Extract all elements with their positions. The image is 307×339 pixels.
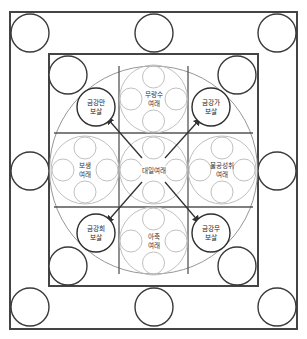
outer-circle-b — [135, 288, 173, 326]
label-center: 대일여래 — [142, 166, 166, 175]
label-top-right-2: 보살 — [205, 107, 217, 116]
bodhisattva-circle-bottom-left — [77, 214, 115, 252]
label-bottom-right-1: 금강무 — [202, 224, 220, 233]
outer-circle-t — [135, 14, 173, 52]
bodhisattva-circle-top-left — [77, 88, 115, 126]
label-top-left-1: 금강만 — [87, 98, 105, 107]
label-north-2: 여래 — [148, 99, 160, 108]
label-bottom-left-2: 보살 — [90, 233, 102, 242]
label-south-1: 아축 — [148, 232, 160, 241]
bodhisattva-circle-bottom-right — [192, 214, 230, 252]
outer-circle-r — [258, 152, 296, 190]
bodhisattva-circle-top-right — [192, 88, 230, 126]
outer-circle-bl — [11, 288, 49, 326]
label-north-1: 무량수 — [145, 91, 163, 99]
outer-circle-l — [11, 152, 49, 190]
inner-circle-br — [218, 247, 256, 285]
inner-circle-tl — [49, 56, 87, 94]
label-top-left-2: 보살 — [90, 107, 102, 116]
inner-circle-bl — [49, 247, 87, 285]
label-east-2: 여래 — [216, 170, 228, 179]
label-bottom-right-2: 보살 — [205, 233, 217, 242]
label-south-2: 여래 — [148, 241, 160, 250]
label-west-1: 보생 — [79, 161, 91, 170]
outer-circle-tr — [258, 14, 296, 52]
outer-circle-br — [258, 288, 296, 326]
label-west-2: 여래 — [79, 170, 91, 179]
inner-circle-tr — [218, 56, 256, 94]
label-top-right-1: 금강가 — [202, 98, 220, 107]
label-bottom-left-1: 금강희 — [87, 224, 105, 233]
label-east-1: 불공성취 — [210, 161, 234, 170]
outer-circle-tl — [11, 14, 49, 52]
mandala-diagram: 금강만 보살 금강가 보살 금강희 보살 금강무 보살 무량수 여래 보생 여래… — [0, 0, 307, 339]
